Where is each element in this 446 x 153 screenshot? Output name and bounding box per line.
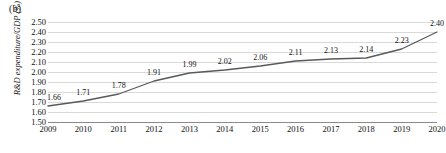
data-label: 1.66 <box>47 94 61 102</box>
data-label: 2.06 <box>253 54 267 62</box>
x-tick-label: 2017 <box>322 125 339 134</box>
data-label: 1.99 <box>182 61 196 69</box>
y-tick-label: 2.40 <box>31 28 46 37</box>
y-axis-tick-labels: 1.501.601.701.801.902.002.102.202.302.40… <box>26 22 46 122</box>
x-tick-label: 2016 <box>287 125 304 134</box>
y-tick-label: 2.10 <box>31 58 46 67</box>
x-tick-label: 2012 <box>146 125 163 134</box>
data-label: 2.14 <box>359 46 373 54</box>
data-label: 2.40 <box>430 20 444 28</box>
data-label: 2.13 <box>324 47 338 55</box>
y-tick-label: 1.70 <box>31 98 46 107</box>
data-label: 2.02 <box>218 58 232 66</box>
x-tick-label: 2010 <box>75 125 92 134</box>
x-tick-label: 2018 <box>358 125 375 134</box>
y-tick-label: 2.20 <box>31 48 46 57</box>
x-tick-label: 2014 <box>216 125 233 134</box>
data-label: 1.91 <box>147 69 161 77</box>
y-axis-title: R&D expenditure/GDP (%) <box>12 0 22 96</box>
y-tick-label: 1.80 <box>31 88 46 97</box>
x-tick-label: 2020 <box>429 125 446 134</box>
x-tick-label: 2011 <box>110 125 127 134</box>
series-polyline <box>48 32 437 106</box>
x-tick-label: 2019 <box>393 125 410 134</box>
y-tick-label: 1.90 <box>31 78 46 87</box>
x-axis-tick-labels: 2009201020112012201320142015201620172018… <box>48 125 437 141</box>
data-label: 2.23 <box>395 37 409 45</box>
x-tick-label: 2015 <box>252 125 269 134</box>
x-tick-label: 2013 <box>181 125 198 134</box>
y-tick-label: 1.60 <box>31 108 46 117</box>
y-tick-label: 2.50 <box>31 18 46 27</box>
y-tick-label: 2.30 <box>31 38 46 47</box>
line-series <box>48 22 437 122</box>
x-tick-label: 2009 <box>40 125 57 134</box>
data-label: 1.78 <box>112 82 126 90</box>
plot-area: 1.661.711.781.911.992.022.062.112.132.14… <box>48 22 437 122</box>
data-label: 1.71 <box>76 89 90 97</box>
y-tick-label: 2.00 <box>31 68 46 77</box>
gridline <box>48 122 437 123</box>
data-label: 2.11 <box>289 49 303 57</box>
